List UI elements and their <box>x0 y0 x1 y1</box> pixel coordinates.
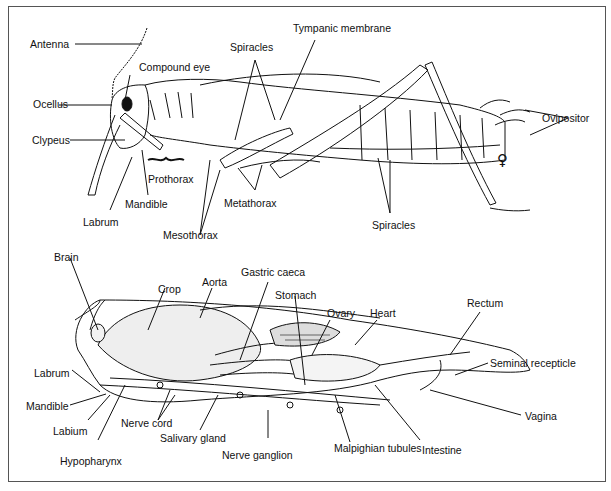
label-tympanic-membrane: Tympanic membrane <box>293 22 391 34</box>
label-metathorax: Metathorax <box>224 197 277 209</box>
label-ovary: Ovary <box>327 307 355 319</box>
label-labrum-lower: Labrum <box>34 367 70 379</box>
label-seminal-recepticle: Seminal recepticle <box>490 357 576 369</box>
label-heart: Heart <box>370 307 396 319</box>
label-mandible-lower: Mandible <box>26 400 69 412</box>
label-intestine: Intestine <box>422 444 462 456</box>
label-prothorax: Prothorax <box>148 173 194 185</box>
label-hypopharynx: Hypopharynx <box>60 455 122 467</box>
internal-anatomy-drawing <box>75 300 530 413</box>
label-mesothorax: Mesothorax <box>163 229 218 241</box>
compound-eye-icon <box>122 97 132 111</box>
label-malpighian-tubules: Malpighian tubules <box>334 442 422 454</box>
label-brain: Brain <box>54 251 79 263</box>
label-labium: Labium <box>53 425 87 437</box>
label-ovipositor: Ovipositor <box>542 112 589 124</box>
label-mandible-upper: Mandible <box>125 198 168 210</box>
label-aorta: Aorta <box>202 276 227 288</box>
label-clypeus: Clypeus <box>32 134 70 146</box>
label-spiracles-lower: Spiracles <box>372 219 415 231</box>
label-nerve-cord: Nerve cord <box>121 417 172 429</box>
label-stomach: Stomach <box>275 289 316 301</box>
label-compound-eye: Compound eye <box>139 61 210 73</box>
label-vagina: Vagina <box>525 410 557 422</box>
label-ocellus: Ocellus <box>33 98 68 110</box>
label-nerve-ganglion: Nerve ganglion <box>222 449 293 461</box>
label-rectum: Rectum <box>467 297 503 309</box>
label-salivary-gland: Salivary gland <box>160 432 226 444</box>
label-gastric-caeca: Gastric caeca <box>241 266 305 278</box>
label-spiracles-upper: Spiracles <box>230 41 273 53</box>
label-labrum-upper: Labrum <box>83 216 119 228</box>
label-antenna: Antenna <box>30 38 69 50</box>
grasshopper-anatomy-illustration <box>0 0 611 491</box>
label-crop: Crop <box>158 283 181 295</box>
female-symbol-icon: ♀ <box>497 151 508 169</box>
